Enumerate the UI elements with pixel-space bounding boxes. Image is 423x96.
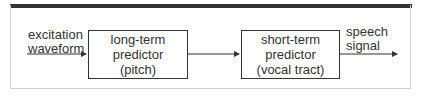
signal-arrows [0,0,423,96]
